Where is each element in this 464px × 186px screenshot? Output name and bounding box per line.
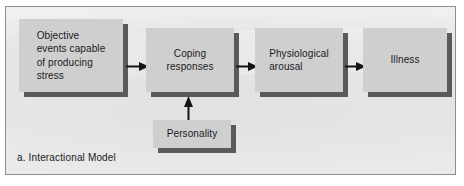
- node-coping-responses: Coping responses: [146, 28, 234, 92]
- node-physiological-arousal: Physiological arousal: [255, 28, 343, 92]
- node-personality-label: Personality: [163, 127, 222, 141]
- node-personality: Personality: [153, 120, 231, 148]
- interactional-model-figure: Objective events capable of producing st…: [0, 0, 464, 186]
- arrow-personality-to-coping: [183, 96, 194, 122]
- node-illness-label: Illness: [386, 53, 423, 67]
- node-objective-events: Objective events capable of producing st…: [19, 19, 123, 92]
- node-illness: Illness: [363, 28, 447, 92]
- node-physiological-arousal-label: Physiological arousal: [265, 47, 333, 74]
- figure-caption: a. Interactional Model: [17, 152, 116, 163]
- node-objective-events-label: Objective events capable of producing st…: [33, 29, 110, 83]
- node-coping-responses-label: Coping responses: [162, 47, 217, 74]
